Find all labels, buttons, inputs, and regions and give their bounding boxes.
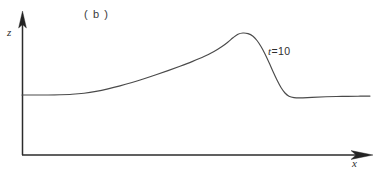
x-axis-label: x bbox=[352, 158, 357, 169]
panel-label: ( b ) bbox=[84, 9, 109, 20]
figure-canvas bbox=[0, 0, 385, 176]
figure-panel: ( b ) z x t=10 bbox=[0, 0, 385, 176]
curve-annotation-t10: t=10 bbox=[268, 46, 290, 57]
data-curve-t10 bbox=[22, 33, 370, 98]
annotation-value: =10 bbox=[271, 45, 290, 57]
z-axis-label: z bbox=[7, 27, 11, 38]
